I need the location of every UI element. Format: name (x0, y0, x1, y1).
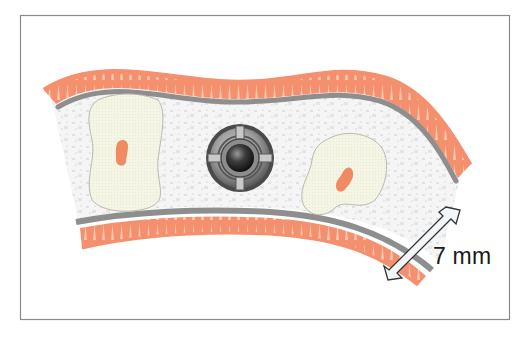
implant-screw-head (206, 124, 274, 192)
measurement-label: 7 mm (433, 243, 491, 270)
left-tooth-root (89, 94, 163, 211)
diagram-canvas (0, 0, 520, 343)
jaw-cross-section-diagram: 7 mm (0, 0, 520, 343)
implant-core (226, 144, 254, 172)
